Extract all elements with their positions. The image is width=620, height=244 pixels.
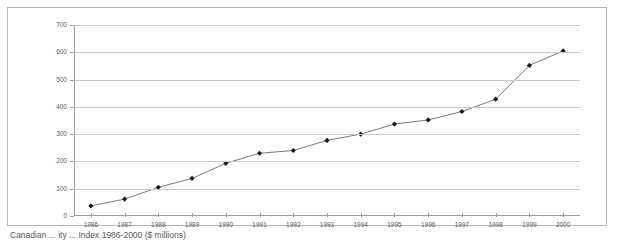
- x-axis-label: 1990: [219, 222, 233, 229]
- x-axis-label: 1999: [522, 222, 536, 229]
- data-point-marker: [88, 203, 93, 208]
- data-point-marker: [426, 117, 431, 122]
- y-axis-tick: [70, 52, 74, 53]
- y-axis-label: 0: [63, 213, 67, 220]
- x-axis-tick: [462, 213, 463, 217]
- data-point-marker: [291, 148, 296, 153]
- y-axis-tick: [70, 189, 74, 190]
- gridline: [74, 189, 580, 190]
- y-axis-tick: [70, 107, 74, 108]
- x-axis-tick: [563, 213, 564, 217]
- x-axis-label: 2000: [556, 222, 570, 229]
- gridline: [74, 25, 580, 26]
- x-axis-tick: [158, 213, 159, 217]
- gridline: [74, 80, 580, 81]
- y-axis-label: 600: [56, 49, 67, 56]
- x-axis-label: 1996: [421, 222, 435, 229]
- y-axis-label: 400: [56, 104, 67, 111]
- data-point-marker: [189, 176, 194, 181]
- data-point-marker: [257, 151, 262, 156]
- x-axis-label: 1992: [286, 222, 300, 229]
- y-axis-tick: [70, 134, 74, 135]
- series-polyline: [91, 51, 563, 206]
- x-axis-label: 1988: [151, 222, 165, 229]
- y-axis-label: 200: [56, 158, 67, 165]
- x-axis-label: 1986: [84, 222, 98, 229]
- x-axis-tick: [91, 213, 92, 217]
- x-axis-label: 1994: [353, 222, 367, 229]
- y-axis-tick: [70, 216, 74, 217]
- x-axis-tick: [192, 213, 193, 217]
- y-axis-label: 700: [56, 22, 67, 29]
- chart-caption: Canadian ... ity ... Index 1986-2000 ($ …: [10, 231, 186, 240]
- gridline: [74, 107, 580, 108]
- y-axis-tick: [70, 161, 74, 162]
- gridline: [74, 134, 580, 135]
- data-point-marker: [459, 109, 464, 114]
- x-axis-tick: [361, 213, 362, 217]
- y-axis-tick: [70, 25, 74, 26]
- x-axis-tick: [260, 213, 261, 217]
- y-axis-tick: [70, 80, 74, 81]
- plot-inner: 0100200300400500600700198619871988198919…: [74, 25, 580, 216]
- y-axis-label: 100: [56, 185, 67, 192]
- x-axis-tick: [428, 213, 429, 217]
- x-axis-label: 1989: [185, 222, 199, 229]
- x-axis-label: 1991: [252, 222, 266, 229]
- gridline: [74, 161, 580, 162]
- x-axis-tick: [125, 213, 126, 217]
- chart-frame: 0100200300400500600700198619871988198919…: [7, 7, 607, 226]
- x-axis-label: 1987: [117, 222, 131, 229]
- x-axis-tick: [496, 213, 497, 217]
- y-axis-label: 500: [56, 76, 67, 83]
- data-point-marker: [324, 138, 329, 143]
- gridline: [74, 52, 580, 53]
- x-axis-tick: [529, 213, 530, 217]
- x-axis-label: 1993: [320, 222, 334, 229]
- y-axis-label: 300: [56, 131, 67, 138]
- chart-screenshot: 0100200300400500600700198619871988198919…: [0, 0, 620, 244]
- data-series-line: [74, 25, 580, 216]
- data-point-marker: [122, 196, 127, 201]
- x-axis-tick: [327, 213, 328, 217]
- x-axis-tick: [293, 213, 294, 217]
- plot-area: 0100200300400500600700198619871988198919…: [74, 25, 580, 216]
- x-axis-tick: [394, 213, 395, 217]
- x-axis-label: 1997: [455, 222, 469, 229]
- x-axis-label: 1995: [387, 222, 401, 229]
- x-axis-tick: [226, 213, 227, 217]
- x-axis-label: 1998: [488, 222, 502, 229]
- data-point-marker: [392, 121, 397, 126]
